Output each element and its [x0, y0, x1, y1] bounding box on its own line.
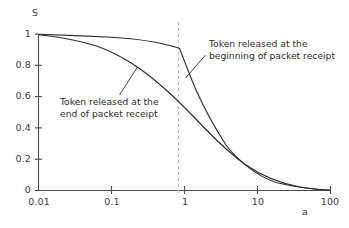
x-tick-label-100: 100: [310, 196, 349, 207]
chart-figure: S a 1 0.8 0.6 0.4 0.2 0 0.01 0.1 1 10 10…: [0, 0, 349, 228]
annotation-end-line-2: end of packet receipt: [60, 108, 159, 120]
annotation-beginning-line-2: beginning of packet receipt: [209, 50, 335, 62]
x-tick-label-0.01: 0.01: [19, 196, 59, 207]
annotation-beginning-of-packet-receipt: Token released at the beginning of packe…: [209, 38, 335, 61]
y-tick-label-0.2: 0.2: [4, 153, 31, 164]
annotation-beginning-line-1: Token released at the: [209, 38, 335, 50]
annotation-end-line-1: Token released at the: [60, 96, 159, 108]
leader-line-end: [120, 67, 138, 95]
plot-area: [0, 0, 349, 228]
y-tick-label-0: 0: [4, 184, 31, 195]
x-tick-label-10: 10: [238, 196, 278, 207]
y-tick-label-0.4: 0.4: [4, 122, 31, 133]
x-tick-label-1: 1: [165, 196, 205, 207]
y-tick-label-0.6: 0.6: [4, 90, 31, 101]
annotation-end-of-packet-receipt: Token released at the end of packet rece…: [60, 96, 159, 119]
y-tick-label-1: 1: [4, 28, 31, 39]
x-tick-label-0.1: 0.1: [92, 196, 132, 207]
y-axis-label: S: [32, 7, 38, 18]
y-tick-label-0.8: 0.8: [4, 59, 31, 70]
leader-line-beginning: [186, 55, 206, 78]
x-axis-label: a: [302, 206, 308, 217]
